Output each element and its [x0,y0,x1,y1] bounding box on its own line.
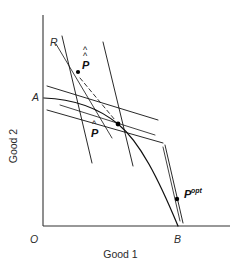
axis-label-b: B [174,233,181,245]
axis-label-o: O [30,233,38,245]
steep-budget-line-upper [62,36,92,163]
ray-label-r: R [50,36,58,48]
ppf-curve [44,98,178,226]
point-marker-p-opt [175,197,179,201]
ppf-figure: R A O B ^ ^ P ^ P P opt Good 1 Good 2 [0,0,241,268]
steep-budget-line-lower [103,42,133,166]
p-double-hat-label: P [82,59,90,71]
p-hat-label: P [91,127,99,139]
p-opt-superscript: opt [191,187,203,195]
axis-label-a: A [31,91,39,103]
point-marker-p-double-hat [76,70,80,74]
point-marker-p-hat [116,122,121,127]
y-axis-title: Good 2 [7,111,19,181]
x-axis-title: Good 1 [0,248,241,260]
ppf-svg-canvas: R A O B ^ ^ P ^ P P opt [0,0,241,268]
tangent-line-at-p-opt [165,145,183,223]
